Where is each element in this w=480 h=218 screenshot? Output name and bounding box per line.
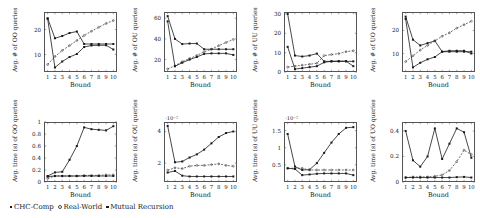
series-layer-uo-count (0, 0, 480, 218)
series-line-ou-time-0 (168, 126, 234, 162)
x-tick-label: 10 (350, 74, 357, 80)
data-point (330, 60, 332, 62)
data-point (61, 50, 63, 52)
x-tick-label: 3 (419, 184, 422, 190)
x-tick-label: 4 (426, 184, 429, 190)
data-point (90, 43, 92, 45)
data-point (69, 32, 71, 34)
x-tick-label: 6 (440, 184, 443, 190)
data-point (189, 59, 191, 61)
legend-entry: CHC-Comp (10, 203, 54, 211)
data-point (316, 169, 318, 171)
data-point (47, 17, 49, 19)
data-point (112, 174, 114, 176)
y-tick-label: 1.5 (259, 128, 281, 134)
data-point (232, 38, 234, 40)
series-line-ou-count-2 (168, 21, 234, 66)
data-point (434, 40, 436, 42)
x-tick-label: 3 (61, 74, 64, 80)
data-point (427, 42, 429, 44)
data-point (456, 50, 458, 52)
data-point (345, 60, 347, 62)
data-point (83, 174, 85, 176)
data-point (316, 53, 318, 55)
x-tick-label: 7 (90, 184, 93, 190)
x-tick-label: 4 (188, 184, 191, 190)
y-axis-label-uu-time: Avg. time (s) of UU queries (251, 99, 258, 182)
data-point (203, 51, 205, 53)
data-point (352, 169, 354, 171)
data-point (98, 129, 100, 131)
series-layer-oo-time (0, 0, 480, 218)
plot-frame-uu-time (284, 122, 357, 182)
data-point (91, 174, 93, 176)
data-point (105, 44, 107, 46)
data-point (218, 45, 220, 47)
data-point (61, 175, 63, 177)
legend-square-marker-icon (10, 206, 12, 208)
data-point (232, 48, 234, 50)
data-point (301, 56, 303, 58)
data-point (309, 169, 311, 171)
data-point (323, 61, 325, 63)
data-point (294, 166, 296, 168)
plot-frame-ou-time (164, 122, 237, 182)
data-point (232, 54, 234, 56)
data-point (90, 175, 92, 177)
subplot-ou-count: 20406012345678910BoundAvg. # of OU queri… (0, 0, 480, 218)
x-tick-label: 4 (68, 184, 71, 190)
data-point (427, 155, 429, 157)
x-tick-label: 8 (217, 74, 220, 80)
data-point (189, 165, 191, 167)
legend-entry: Real-World (58, 203, 103, 211)
x-tick-label: 4 (68, 74, 71, 80)
data-point (167, 20, 169, 22)
x-tick-label: 3 (181, 74, 184, 80)
data-point (105, 174, 107, 176)
data-point (323, 152, 325, 154)
series-line-ou-time-2 (168, 171, 234, 177)
data-point (218, 52, 220, 54)
data-point (181, 168, 183, 170)
data-point (167, 172, 169, 174)
x-tick-label: 10 (230, 184, 237, 190)
x-tick-label: 1 (166, 74, 169, 80)
data-point (76, 53, 78, 55)
data-point (427, 45, 429, 47)
data-point (218, 163, 220, 165)
data-point (181, 62, 183, 64)
x-tick-label: 4 (426, 74, 429, 80)
data-point (189, 58, 191, 60)
data-point (463, 50, 465, 52)
data-point (69, 56, 71, 58)
series-line-uo-count-2 (406, 19, 472, 67)
data-point (434, 175, 436, 177)
data-point (405, 130, 407, 132)
axis-exponent-ou-time: ·10⁻² (165, 115, 178, 121)
data-point (69, 175, 71, 177)
x-tick-label: 8 (455, 74, 458, 80)
data-point (419, 177, 421, 179)
x-tick-label: 5 (75, 184, 78, 190)
data-point (456, 27, 458, 29)
x-tick-label: 4 (308, 74, 311, 80)
data-point (189, 157, 191, 159)
legend-entry: Mutual Recursion (106, 203, 173, 211)
data-point (83, 43, 85, 45)
data-point (323, 55, 325, 57)
data-point (90, 128, 92, 130)
data-point (434, 56, 436, 58)
data-point (441, 174, 443, 176)
data-point (69, 175, 71, 177)
data-point (47, 176, 49, 178)
data-point (287, 167, 289, 169)
data-point (449, 32, 451, 34)
legend-square-marker-icon (106, 206, 108, 208)
data-point (218, 48, 220, 50)
data-point (330, 172, 332, 174)
x-tick-label: 6 (440, 74, 443, 80)
data-point (338, 172, 340, 174)
x-tick-label: 1 (166, 184, 169, 190)
series-line-uo-time-0 (406, 128, 472, 166)
data-point (174, 161, 176, 163)
